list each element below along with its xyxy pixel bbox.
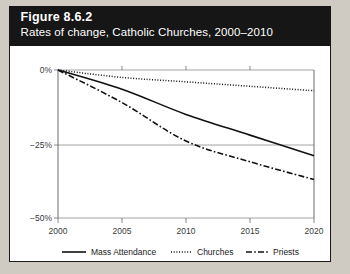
xtick-label-2010: 2010	[177, 226, 196, 236]
x-tickmarks	[58, 66, 314, 223]
series-line-mass-attendance	[58, 70, 314, 156]
data-series-group	[58, 70, 314, 180]
ytick-label-0: 0%	[40, 65, 53, 75]
xtick-label-2000: 2000	[49, 226, 68, 236]
y-tickmarks	[54, 70, 58, 218]
figure-header: Figure 8.6.2 Rates of change, Catholic C…	[9, 6, 331, 46]
xtick-label-2015: 2015	[241, 226, 260, 236]
chart-legend: Mass Attendance Churches Priests	[62, 247, 299, 257]
series-line-priests	[58, 70, 314, 180]
legend-label-churches: Churches	[197, 247, 233, 257]
xtick-label-2020: 2020	[305, 226, 324, 236]
ytick-label-minus50: −50%	[30, 213, 52, 223]
legend-label-priests: Priests	[273, 247, 299, 257]
ytick-label-minus25: −25%	[30, 140, 52, 150]
xtick-label-2005: 2005	[113, 226, 132, 236]
figure-card: Figure 8.6.2 Rates of change, Catholic C…	[9, 6, 331, 262]
line-chart: 0% −25% −50% 2000 2005 2010 2015 2020 Ma…	[10, 47, 329, 261]
legend-label-mass-attendance: Mass Attendance	[91, 247, 156, 257]
chart-plot-region: 0% −25% −50% 2000 2005 2010 2015 2020 Ma…	[10, 47, 329, 261]
x-axis-tick-labels: 2000 2005 2010 2015 2020	[49, 226, 324, 236]
figure-number-label: Figure 8.6.2	[21, 10, 331, 25]
figure-subtitle: Rates of change, Catholic Churches, 2000…	[21, 25, 331, 40]
y-axis-tick-labels: 0% −25% −50%	[30, 65, 52, 223]
